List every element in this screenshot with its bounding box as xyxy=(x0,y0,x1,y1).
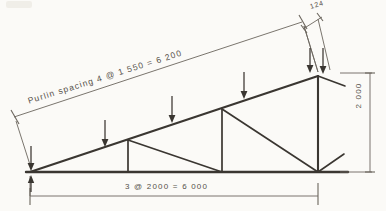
diagonal-web-1 xyxy=(128,140,222,172)
span-dimension-label: 3 @ 2000 = 6 000 xyxy=(125,182,208,191)
height-dimension-label: 2 000 xyxy=(354,82,363,108)
truss-drawing-svg: .member { stroke:#3a3631; stroke-width:2… xyxy=(0,0,386,211)
overhang-dimension xyxy=(301,13,330,72)
load-arrow-3 xyxy=(169,96,176,123)
load-arrow-5 xyxy=(307,48,314,73)
load-arrow-4 xyxy=(241,72,248,99)
apex-overhang-stub xyxy=(318,76,345,86)
load-arrow-2 xyxy=(102,120,109,147)
diagonal-web-2 xyxy=(222,109,318,172)
drawing-canvas: .member { stroke:#3a3631; stroke-width:2… xyxy=(0,0,386,211)
load-arrow-1 xyxy=(28,146,35,171)
bottom-right-stub xyxy=(318,154,344,172)
